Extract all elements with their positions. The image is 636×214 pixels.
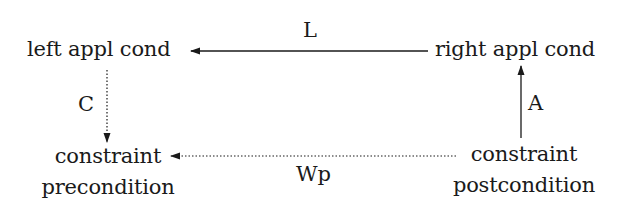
node-left-appl-cond: left appl cond — [27, 39, 170, 60]
node-constraint-postcondition: constraint postcondition — [426, 139, 622, 201]
node-postcondition-line2: postcondition — [426, 170, 622, 201]
edge-label-Wp: Wp — [296, 164, 331, 185]
edge-label-C: C — [78, 94, 94, 115]
node-constraint-precondition: constraint precondition — [10, 141, 206, 203]
node-right-appl-cond: right appl cond — [435, 39, 595, 60]
edge-label-A: A — [528, 93, 543, 114]
commutative-diagram: left appl cond right appl cond constrain… — [0, 0, 636, 214]
node-precondition-line2: precondition — [10, 172, 206, 203]
node-postcondition-line1: constraint — [426, 139, 622, 170]
edge-label-L: L — [303, 20, 317, 41]
node-precondition-line1: constraint — [10, 141, 206, 172]
